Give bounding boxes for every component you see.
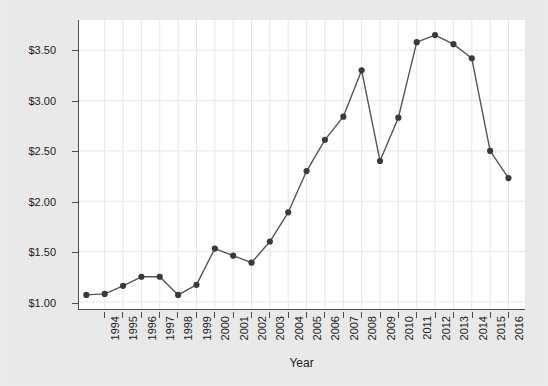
x-axis-tick-label: 2003 (274, 316, 286, 340)
y-axis-tick-label: $2.00 (28, 196, 56, 208)
data-point-marker (193, 282, 199, 288)
x-axis-tick-label: 2005 (311, 316, 323, 340)
series-line (86, 35, 508, 295)
data-point-marker (469, 55, 475, 61)
x-axis-tick-mark (398, 312, 399, 318)
data-point-marker (377, 158, 383, 164)
x-axis-tick-mark (380, 312, 381, 318)
x-axis-tick-label: 2008 (366, 316, 378, 340)
x-axis-tick-label: 2010 (403, 316, 415, 340)
x-axis-tick-mark (196, 312, 197, 318)
data-point-marker (450, 41, 456, 47)
y-axis-tick-label: $1.50 (28, 246, 56, 258)
x-axis-tick-mark (472, 312, 473, 318)
x-axis-tick-mark (122, 312, 123, 318)
x-axis-tick-label: 1998 (182, 316, 194, 340)
x-axis-tick-mark (453, 312, 454, 318)
data-point-marker (248, 260, 254, 266)
data-point-marker (267, 238, 273, 244)
x-axis-tick-mark (306, 312, 307, 318)
x-axis-tick-label: 2009 (385, 316, 397, 340)
x-axis-tick-label: 2015 (495, 316, 507, 340)
x-axis-tick-mark (177, 312, 178, 318)
y-axis-tick-label: $1.00 (28, 297, 56, 309)
gasoline-price-series (79, 20, 525, 309)
data-point-marker (359, 67, 365, 73)
y-axis-tick-label: $3.50 (28, 44, 56, 56)
data-point-marker (285, 209, 291, 215)
data-point-marker (138, 274, 144, 280)
x-axis-tick-label: 2004 (293, 316, 305, 340)
x-axis-tick-mark (343, 312, 344, 318)
data-point-marker (414, 39, 420, 45)
x-axis-tick-mark (324, 312, 325, 318)
x-axis-tick-mark (490, 312, 491, 318)
x-axis-tick-mark (233, 312, 234, 318)
x-axis-tick-label: 1994 (109, 316, 121, 340)
x-axis-tick-label: 2012 (440, 316, 452, 340)
x-axis-tick-label: 1999 (201, 316, 213, 340)
data-point-marker (505, 175, 511, 181)
chart-screenshot: Price of Gasoline ($ per gallon) $1.00$1… (0, 0, 548, 386)
x-axis-tick-mark (435, 312, 436, 318)
x-axis-tick-label: 2002 (256, 316, 268, 340)
x-axis-tick-label: 2011 (421, 316, 433, 340)
data-point-marker (432, 32, 438, 38)
data-point-marker (102, 291, 108, 297)
data-point-marker (303, 168, 309, 174)
data-point-marker (83, 292, 89, 298)
x-axis-tick-label: 1995 (127, 316, 139, 340)
data-point-marker (157, 274, 163, 280)
x-axis-tick-mark (159, 312, 160, 318)
data-point-marker (340, 114, 346, 120)
x-axis-tick-label: 2013 (458, 316, 470, 340)
y-axis-tick-labels: $1.00$1.50$2.00$2.50$3.00$3.50 (0, 20, 70, 310)
x-axis-tick-label: 2007 (348, 316, 360, 340)
data-point-marker (487, 148, 493, 154)
data-point-marker (322, 137, 328, 143)
x-axis-tick-label: 2016 (513, 316, 525, 340)
x-axis-tick-mark (288, 312, 289, 318)
x-axis-tick-mark (214, 312, 215, 318)
data-point-marker (175, 292, 181, 298)
x-axis-tick-label: 2006 (329, 316, 341, 340)
y-axis-tick-label: $3.00 (28, 95, 56, 107)
x-axis-tick-labels: 1994199519961997199819992000200120022003… (78, 312, 525, 358)
data-point-marker (395, 115, 401, 121)
x-axis-tick-label: 2001 (238, 316, 250, 340)
data-point-marker (120, 283, 126, 289)
y-axis-tick-label: $2.50 (28, 145, 56, 157)
x-axis-tick-label: 2014 (477, 316, 489, 340)
x-axis-tick-mark (361, 312, 362, 318)
data-point-marker (230, 253, 236, 259)
x-axis-tick-mark (416, 312, 417, 318)
plot-area (78, 20, 525, 310)
x-axis-tick-mark (141, 312, 142, 318)
x-axis-tick-mark (104, 312, 105, 318)
x-axis-tick-label: 1997 (164, 316, 176, 340)
x-axis-tick-label: 1996 (146, 316, 158, 340)
data-point-marker (212, 245, 218, 251)
x-axis-tick-mark (508, 312, 509, 318)
x-axis-tick-mark (269, 312, 270, 318)
x-axis-label: Year (78, 356, 525, 370)
x-axis-tick-mark (251, 312, 252, 318)
x-axis-tick-label: 2000 (219, 316, 231, 340)
